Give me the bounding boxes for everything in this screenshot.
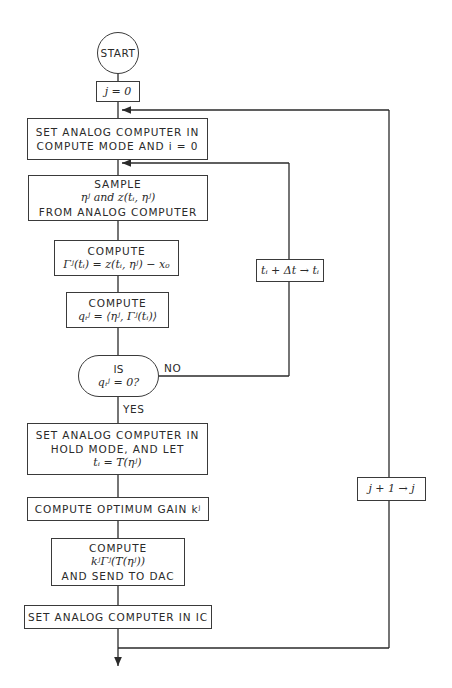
sample-box: SAMPLE ηʲ and z(tᵢ, ηʲ) FROM ANALOG COMP… xyxy=(28,175,208,221)
set-hold-line1: SET ANALOG COMPUTER IN xyxy=(36,428,200,442)
compute-send-line1: COMPUTE xyxy=(89,541,147,555)
set-compute-line2: COMPUTE MODE AND i = 0 xyxy=(37,139,199,153)
set-hold-line2: HOLD MODE, AND LET xyxy=(51,442,185,456)
j-increment-box: j + 1 → j xyxy=(357,477,426,501)
no-label: NO xyxy=(164,362,181,374)
compute-send-box: COMPUTE kʲΓʲ(T(ηʲ)) AND SEND TO DAC xyxy=(51,538,185,586)
compute-send-line2: kʲΓʲ(T(ηʲ)) xyxy=(91,555,145,569)
start-terminal: START xyxy=(97,32,139,74)
yes-label: YES xyxy=(123,403,145,415)
compute-gamma-line1: COMPUTE xyxy=(87,244,145,258)
set-compute-line1: SET ANALOG COMPUTER IN xyxy=(36,125,200,139)
decision-line1: IS xyxy=(114,362,124,376)
decision-line2: qᵢʲ = 0? xyxy=(98,376,139,390)
optimum-gain-box: COMPUTE OPTIMUM GAIN kʲ xyxy=(27,497,209,521)
set-ic-box: SET ANALOG COMPUTER IN IC xyxy=(24,605,212,629)
compute-gamma-box: COMPUTE Γʲ(tᵢ) = z(tᵢ, ηʲ) − x₀ xyxy=(54,240,179,276)
init-j-label: j = 0 xyxy=(105,85,132,99)
sample-line3: FROM ANALOG COMPUTER xyxy=(39,205,197,219)
compute-q-line1: COMPUTE xyxy=(88,296,146,310)
compute-send-line3: AND SEND TO DAC xyxy=(62,569,175,583)
set-compute-mode-box: SET ANALOG COMPUTER IN COMPUTE MODE AND … xyxy=(27,118,208,160)
compute-q-line2: qᵢʲ = ⟨ηʲ, Γʲ(tᵢ)⟩ xyxy=(78,310,157,324)
set-ic-label: SET ANALOG COMPUTER IN IC xyxy=(28,610,208,624)
set-hold-mode-box: SET ANALOG COMPUTER IN HOLD MODE, AND LE… xyxy=(27,423,208,475)
compute-q-box: COMPUTE qᵢʲ = ⟨ηʲ, Γʲ(tᵢ)⟩ xyxy=(66,292,169,328)
init-j-box: j = 0 xyxy=(96,81,140,102)
sample-line2: ηʲ and z(tᵢ, ηʲ) xyxy=(81,191,156,205)
time-step-box: tᵢ + Δt → tᵢ xyxy=(256,259,324,282)
decision-q-zero: IS qᵢʲ = 0? xyxy=(78,355,159,397)
time-step-label: tᵢ + Δt → tᵢ xyxy=(261,264,319,278)
optimum-gain-label: COMPUTE OPTIMUM GAIN kʲ xyxy=(35,502,202,516)
j-increment-label: j + 1 → j xyxy=(368,482,414,496)
set-hold-line3: tᵢ = T(ηʲ) xyxy=(93,456,141,470)
compute-gamma-line2: Γʲ(tᵢ) = z(tᵢ, ηʲ) − x₀ xyxy=(63,258,169,272)
start-label: START xyxy=(101,47,136,59)
sample-line1: SAMPLE xyxy=(94,177,141,191)
